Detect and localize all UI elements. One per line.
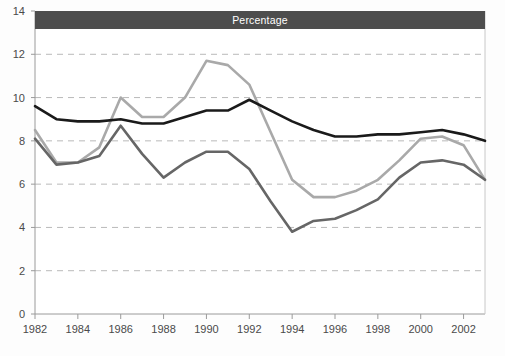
x-axis-label-1986: 1986 bbox=[108, 323, 132, 335]
y-tick-marks bbox=[31, 11, 35, 314]
y-axis-label-2: 2 bbox=[19, 265, 25, 277]
x-axis-label-1984: 1984 bbox=[66, 323, 90, 335]
y-axis-tick-labels: 02468101214 bbox=[13, 5, 25, 320]
y-axis-label-8: 8 bbox=[19, 135, 25, 147]
x-axis-label-1998: 1998 bbox=[366, 323, 390, 335]
chart-container: 02468101214 1982198419861988199019921994… bbox=[0, 0, 505, 356]
x-axis-tick-labels: 1982198419861988199019921994199619982000… bbox=[23, 323, 476, 335]
y-axis-label-14: 14 bbox=[13, 5, 25, 17]
x-axis-label-2002: 2002 bbox=[451, 323, 475, 335]
y-axis-label-10: 10 bbox=[13, 92, 25, 104]
y-axis-label-0: 0 bbox=[19, 308, 25, 320]
x-axis-label-1988: 1988 bbox=[151, 323, 175, 335]
x-axis-label-1982: 1982 bbox=[23, 323, 47, 335]
x-axis-label-1992: 1992 bbox=[237, 323, 261, 335]
x-tick-marks bbox=[35, 314, 464, 319]
y-axis-label-6: 6 bbox=[19, 178, 25, 190]
y-axis-label-12: 12 bbox=[13, 48, 25, 60]
x-axis-label-1990: 1990 bbox=[194, 323, 218, 335]
y-axis-label-4: 4 bbox=[19, 221, 25, 233]
chart-title-banner: Percentage bbox=[35, 11, 485, 29]
line-chart: 02468101214 1982198419861988199019921994… bbox=[0, 0, 505, 356]
x-axis-label-1996: 1996 bbox=[323, 323, 347, 335]
x-axis-label-2000: 2000 bbox=[408, 323, 432, 335]
chart-title: Percentage bbox=[232, 15, 288, 26]
plot-background bbox=[35, 11, 485, 314]
x-axis-label-1994: 1994 bbox=[280, 323, 304, 335]
